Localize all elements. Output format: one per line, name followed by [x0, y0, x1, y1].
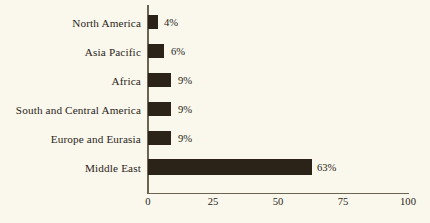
bar-africa: [148, 73, 171, 87]
bar-row: Europe and Eurasia 9%: [0, 124, 430, 153]
category-label: Middle East: [0, 153, 141, 182]
bar-middle-east: [148, 159, 312, 175]
x-tick-label-75: 75: [338, 196, 349, 207]
x-tick-label-50: 50: [273, 196, 284, 207]
bar-asia-pacific: [148, 44, 164, 58]
x-axis-line: [147, 193, 409, 194]
bar-value-label: 63%: [317, 153, 336, 182]
bar-value-label: 9%: [178, 95, 192, 124]
category-label: South and Central America: [0, 95, 141, 124]
bar-row: Asia Pacific 6%: [0, 37, 430, 66]
bar-row: Africa 9%: [0, 66, 430, 95]
bar-row: Middle East 63%: [0, 153, 430, 182]
bar-south-and-central-america: [148, 102, 171, 116]
bar-north-america: [148, 15, 158, 29]
bar-row: North America 4%: [0, 8, 430, 37]
category-label: Asia Pacific: [0, 37, 141, 66]
bar-value-label: 6%: [171, 37, 185, 66]
bar-chart: North America 4% Asia Pacific 6% Africa …: [0, 0, 430, 223]
bar-europe-and-eurasia: [148, 131, 171, 145]
bar-row: South and Central America 9%: [0, 95, 430, 124]
bar-value-label: 4%: [164, 8, 178, 37]
bar-value-label: 9%: [178, 124, 192, 153]
x-tick-label-0: 0: [145, 196, 150, 207]
category-label: Africa: [0, 66, 141, 95]
category-label: North America: [0, 8, 141, 37]
x-tick-label-25: 25: [208, 196, 219, 207]
plot-area: North America 4% Asia Pacific 6% Africa …: [0, 0, 430, 223]
category-label: Europe and Eurasia: [0, 124, 141, 153]
x-tick-label-100: 100: [400, 196, 416, 207]
bar-value-label: 9%: [178, 66, 192, 95]
